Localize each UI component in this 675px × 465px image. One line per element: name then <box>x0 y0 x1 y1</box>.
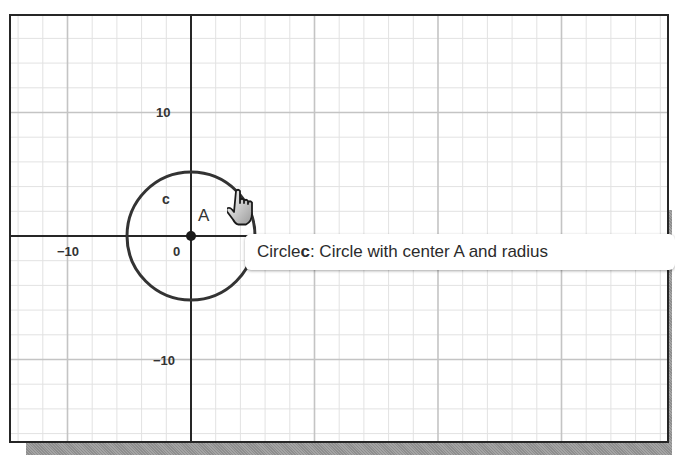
circle-label[interactable]: c <box>162 191 170 207</box>
coordinate-grid <box>11 16 667 441</box>
object-tooltip: Circle c : Circle with center A and radi… <box>245 234 675 270</box>
x-tick-label-0: 0 <box>173 244 180 259</box>
point-a <box>186 231 196 241</box>
tooltip-prefix: Circle <box>257 242 300 262</box>
y-tick-label-minus-10: −10 <box>153 353 175 368</box>
hand-pointer-icon <box>227 188 261 228</box>
tooltip-description: : Circle with center A and radius <box>310 242 548 262</box>
y-tick-label-10: 10 <box>156 105 170 120</box>
point-label[interactable]: A <box>198 206 209 226</box>
minor-grid <box>11 16 667 441</box>
graphics-view[interactable]: 10 −10 −10 0 c A <box>9 14 669 443</box>
x-tick-label-minus-10: −10 <box>57 244 79 259</box>
tooltip-object-name: c <box>300 242 309 262</box>
